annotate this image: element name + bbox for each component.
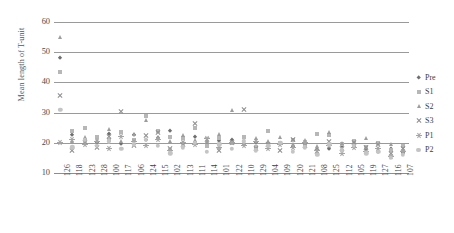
diamond-marker-icon bbox=[414, 73, 423, 82]
y-tick-label: 50 bbox=[14, 48, 50, 56]
gridline bbox=[54, 113, 409, 114]
data-point bbox=[69, 137, 75, 143]
data-point bbox=[376, 150, 380, 154]
x-tick-label: 119 bbox=[369, 164, 378, 176]
data-point bbox=[205, 144, 209, 148]
legend-label: S2 bbox=[425, 102, 433, 111]
data-point bbox=[155, 129, 161, 135]
y-axis-ticks: 102030405060 bbox=[6, 22, 50, 173]
data-point bbox=[169, 129, 172, 132]
data-point bbox=[352, 144, 356, 148]
data-point bbox=[144, 138, 148, 142]
data-point bbox=[401, 153, 405, 157]
data-point bbox=[340, 141, 344, 145]
legend-item[interactable]: S3 bbox=[414, 114, 454, 129]
data-point bbox=[132, 132, 136, 136]
data-point bbox=[58, 107, 62, 111]
data-point bbox=[277, 147, 283, 153]
x-axis-ticks: 1261181231281001171061241151021131111141… bbox=[54, 176, 409, 232]
data-point bbox=[119, 147, 123, 151]
data-point bbox=[180, 145, 184, 149]
data-point bbox=[278, 141, 282, 145]
y-tick-label: 60 bbox=[14, 18, 50, 26]
x-marker-icon bbox=[414, 116, 423, 125]
plot-area bbox=[54, 22, 409, 173]
y-tick-label: 30 bbox=[14, 109, 50, 117]
data-point bbox=[254, 148, 258, 152]
legend-item[interactable]: P2 bbox=[414, 143, 454, 158]
data-point bbox=[217, 132, 221, 136]
gridline bbox=[54, 52, 409, 53]
data-point bbox=[315, 132, 319, 136]
data-point bbox=[156, 144, 160, 148]
legend-label: Pre bbox=[425, 73, 436, 82]
data-point bbox=[131, 142, 135, 146]
y-tick-label: 40 bbox=[14, 78, 50, 86]
data-point bbox=[364, 136, 368, 140]
data-point bbox=[229, 140, 235, 146]
x-tick-label: 127 bbox=[381, 164, 390, 176]
star-marker-icon bbox=[414, 131, 423, 140]
data-point bbox=[57, 140, 63, 146]
data-point bbox=[327, 142, 331, 146]
data-point bbox=[192, 120, 198, 126]
data-point bbox=[70, 145, 74, 149]
data-point bbox=[95, 144, 99, 148]
x-tick-label: 105 bbox=[357, 164, 366, 176]
legend-item[interactable]: S2 bbox=[414, 99, 454, 114]
data-point bbox=[168, 135, 172, 139]
x-tick-label: 125 bbox=[332, 164, 341, 176]
data-point bbox=[155, 137, 161, 143]
x-tick-label: 107 bbox=[406, 164, 415, 176]
data-point bbox=[118, 134, 124, 140]
x-tick-label: 104 bbox=[271, 164, 280, 176]
x-tick-label: 106 bbox=[137, 164, 146, 176]
data-point bbox=[106, 146, 112, 152]
data-point bbox=[242, 139, 246, 143]
legend-label: S1 bbox=[425, 87, 433, 96]
data-point bbox=[339, 148, 343, 152]
data-point bbox=[327, 130, 331, 134]
x-tick-label: 112 bbox=[345, 164, 354, 176]
legend-label: S3 bbox=[425, 116, 433, 125]
data-point bbox=[229, 147, 233, 151]
data-point bbox=[168, 151, 172, 155]
data-point bbox=[82, 141, 88, 147]
data-point bbox=[168, 139, 172, 143]
data-point bbox=[241, 143, 247, 149]
x-tick-label: 121 bbox=[308, 164, 317, 176]
data-point bbox=[303, 145, 307, 149]
square-marker-icon bbox=[414, 87, 423, 96]
data-point bbox=[217, 136, 221, 140]
data-point bbox=[230, 108, 234, 112]
gridline bbox=[54, 82, 409, 83]
data-point bbox=[389, 142, 393, 146]
data-point bbox=[193, 141, 197, 145]
data-point bbox=[58, 57, 61, 60]
data-point bbox=[266, 129, 270, 133]
data-point bbox=[107, 139, 111, 143]
x-tick-label: 110 bbox=[247, 164, 256, 176]
data-point bbox=[204, 135, 210, 141]
legend-item[interactable]: P1 bbox=[414, 128, 454, 143]
data-point bbox=[144, 114, 148, 118]
data-point bbox=[107, 127, 111, 131]
x-tick-label: 113 bbox=[186, 164, 195, 176]
x-tick-label: 102 bbox=[173, 164, 182, 176]
data-point bbox=[181, 133, 185, 137]
x-tick-label: 128 bbox=[100, 164, 109, 176]
data-point bbox=[388, 156, 392, 160]
legend-item[interactable]: Pre bbox=[414, 70, 454, 85]
y-tick-label: 20 bbox=[14, 139, 50, 147]
data-point bbox=[58, 35, 62, 39]
legend-item[interactable]: S1 bbox=[414, 85, 454, 100]
data-point bbox=[241, 107, 247, 113]
chart-legend: PreS1S2S3P1P2 bbox=[414, 70, 454, 157]
data-point bbox=[119, 139, 123, 143]
circle-marker-icon bbox=[414, 145, 423, 154]
x-tick-label: 116 bbox=[394, 164, 403, 176]
x-tick-label: 115 bbox=[161, 164, 170, 176]
scatter-chart: Mean length of T-unit 102030405060 12611… bbox=[0, 0, 454, 233]
data-point bbox=[82, 138, 86, 142]
y-tick-label: 10 bbox=[14, 169, 50, 177]
